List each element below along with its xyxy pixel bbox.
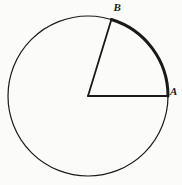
geometry-figure: B A [0, 0, 182, 185]
circle-diagram-canvas [0, 0, 182, 185]
point-label-b: B [113, 2, 120, 13]
radius-segment-to-b [88, 20, 111, 97]
point-label-a: A [170, 86, 177, 97]
highlighted-arc-ab [111, 20, 168, 97]
